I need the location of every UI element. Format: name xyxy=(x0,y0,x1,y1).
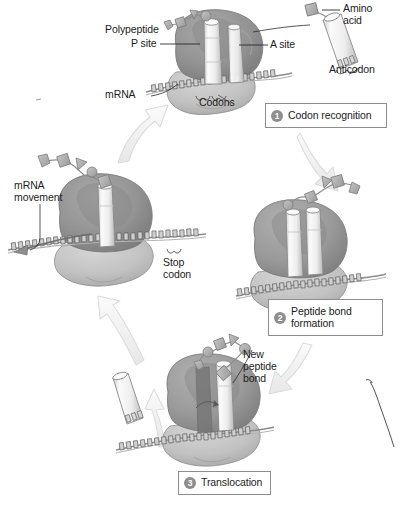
label-mrna: mRNA xyxy=(105,89,136,101)
ribosome-stage-2 xyxy=(236,175,386,313)
step-label-3: Translocation xyxy=(201,477,262,489)
step-badge-3: 3 xyxy=(184,477,196,489)
leader-incoming-trna xyxy=(253,25,310,32)
label-anticodon: Anticodon xyxy=(329,64,375,76)
label-amino-acid: Amino acid xyxy=(343,3,372,27)
step-box-translocation[interactable]: 3 Translocation xyxy=(178,471,271,495)
scan-artifact-line xyxy=(370,382,394,447)
trna-p-site-stage-1 xyxy=(204,19,222,84)
step-badge-1: 1 xyxy=(271,110,283,122)
label-polypeptide: Polypeptide xyxy=(105,24,159,36)
label-p-site: P site xyxy=(131,38,156,50)
step-label-1: Codon recognition xyxy=(288,110,372,122)
step-box-peptide-bond-formation[interactable]: 2 Peptide bond formation xyxy=(268,299,383,336)
step-badge-2: 2 xyxy=(274,312,286,324)
released-trna xyxy=(112,371,143,424)
translation-cycle-diagram: Polypeptide P site A site mRNA Codons Am… xyxy=(0,0,407,508)
cycle-arrow-left-up xyxy=(118,105,168,163)
diagram-artwork xyxy=(0,0,407,508)
trna-slot-vacating xyxy=(196,367,212,433)
trna-a-site-stage-2 xyxy=(306,207,323,275)
trna-stage-4 xyxy=(98,183,115,247)
label-a-site: A site xyxy=(270,39,295,51)
step-box-codon-recognition[interactable]: 1 Codon recognition xyxy=(265,103,387,128)
stop-codon-brace xyxy=(167,249,181,253)
label-new-peptide-bond: New peptide bond xyxy=(243,349,277,384)
label-codons: Codons xyxy=(199,97,235,109)
cycle-arrow-left-bottom-up xyxy=(98,296,144,365)
label-stop-codon: Stop codon xyxy=(163,257,191,281)
label-mrna-movement: mRNA movement xyxy=(14,180,62,204)
amino-acid-shape xyxy=(305,3,318,16)
step-label-2: Peptide bond formation xyxy=(291,306,352,330)
trna-p-site-stage-2 xyxy=(286,209,303,277)
